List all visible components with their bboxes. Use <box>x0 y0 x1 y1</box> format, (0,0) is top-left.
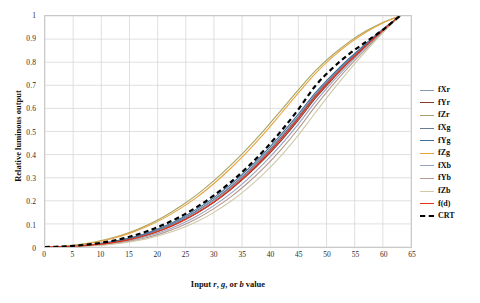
y-tick-label: 0.2 <box>26 197 36 206</box>
legend-item-label: fYr <box>438 99 450 107</box>
x-tick-label: 10 <box>97 250 105 259</box>
legend-item[interactable]: CRT <box>420 210 480 223</box>
y-axis-title: Relative luminous output <box>13 56 23 216</box>
series-fXr <box>45 16 400 247</box>
legend-item[interactable]: fYr <box>420 97 480 110</box>
x-title-sep: , or <box>225 279 239 289</box>
legend-item[interactable]: fXb <box>420 160 480 173</box>
legend-swatch-icon <box>420 203 434 204</box>
chart-legend: fXrfYrfZrfXgfYgfZgfXbfYbfZbf(d)CRT <box>420 84 480 223</box>
legend-item[interactable]: fZb <box>420 185 480 198</box>
series-fZg <box>45 16 400 247</box>
legend-item-label: CRT <box>438 212 455 220</box>
legend-swatch-icon <box>420 140 434 141</box>
y-tick-label: 0.3 <box>26 174 36 183</box>
legend-item-label: fZr <box>438 111 450 119</box>
legend-swatch-icon <box>420 128 434 129</box>
x-axis-tick-labels: 05101520253035404550556065 <box>44 250 412 264</box>
y-tick-label: 0.9 <box>26 34 36 43</box>
series-fXg <box>45 16 400 247</box>
x-tick-label: 45 <box>295 250 303 259</box>
series-fZr <box>45 16 400 247</box>
legend-item-label: fYb <box>438 174 451 182</box>
x-axis-title: Input r, g, or b value <box>44 279 412 289</box>
series-fYr <box>45 16 400 247</box>
x-tick-label: 25 <box>182 250 190 259</box>
y-tick-label: 0.1 <box>26 220 36 229</box>
legend-item-label: fZb <box>438 187 450 195</box>
series-fYg <box>45 16 400 247</box>
x-tick-label: 30 <box>210 250 218 259</box>
legend-swatch-icon <box>420 191 434 192</box>
legend-item-label: f(d) <box>438 200 450 208</box>
legend-swatch-icon <box>420 165 434 166</box>
series-f(d) <box>45 16 400 247</box>
legend-item[interactable]: fYg <box>420 134 480 147</box>
x-tick-label: 35 <box>238 250 246 259</box>
x-tick-label: 0 <box>42 250 46 259</box>
legend-swatch-icon <box>420 215 434 217</box>
plot-area <box>44 15 412 248</box>
legend-item[interactable]: fZg <box>420 147 480 160</box>
legend-item[interactable]: fZr <box>420 109 480 122</box>
legend-item-label: fXb <box>438 162 451 170</box>
x-tick-label: 60 <box>380 250 388 259</box>
x-tick-label: 20 <box>153 250 161 259</box>
y-tick-label: 1 <box>32 11 36 20</box>
y-tick-label: 0 <box>32 244 36 253</box>
chart-figure: 00.10.20.30.40.50.60.70.80.91 Relative l… <box>0 0 480 303</box>
legend-item-label: fXg <box>438 124 450 132</box>
legend-item[interactable]: fXg <box>420 122 480 135</box>
y-tick-label: 0.8 <box>26 57 36 66</box>
legend-item[interactable]: fXr <box>420 84 480 97</box>
legend-item[interactable]: fYb <box>420 172 480 185</box>
x-tick-label: 15 <box>125 250 133 259</box>
legend-swatch-icon <box>420 178 434 179</box>
series-CRT <box>45 16 400 247</box>
legend-swatch-icon <box>420 115 434 116</box>
legend-item[interactable]: f(d) <box>420 197 480 210</box>
series-fZb <box>45 16 400 247</box>
x-tick-label: 5 <box>70 250 74 259</box>
y-tick-label: 0.5 <box>26 127 36 136</box>
y-tick-label: 0.4 <box>26 150 36 159</box>
series-fXb <box>45 16 400 247</box>
legend-item-label: fYg <box>438 137 450 145</box>
data-curves <box>45 16 411 247</box>
y-tick-label: 0.6 <box>26 104 36 113</box>
x-tick-label: 40 <box>267 250 275 259</box>
legend-swatch-icon <box>420 102 434 103</box>
x-tick-label: 50 <box>323 250 331 259</box>
x-title-suffix: value <box>244 279 266 289</box>
y-tick-label: 0.7 <box>26 80 36 89</box>
legend-swatch-icon <box>420 90 434 91</box>
legend-swatch-icon <box>420 153 434 154</box>
x-tick-label: 65 <box>408 250 416 259</box>
x-title-prefix: Input <box>191 279 213 289</box>
legend-item-label: fZg <box>438 149 450 157</box>
series-fYb <box>45 16 400 247</box>
legend-item-label: fXr <box>438 86 450 94</box>
x-tick-label: 55 <box>352 250 360 259</box>
